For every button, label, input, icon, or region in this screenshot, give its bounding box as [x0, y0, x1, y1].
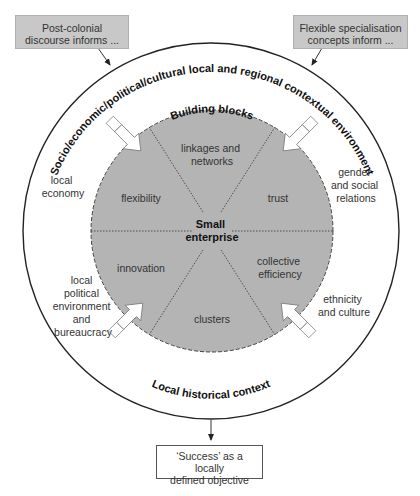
segment-trust: trust — [268, 192, 289, 204]
success-objective-box: ‘Success’ as a locally defined objective — [156, 445, 263, 479]
flexible-spec-connector — [312, 48, 322, 65]
success-line2: defined objective — [161, 474, 258, 486]
factor-gender-social-relations: gender and social relations — [331, 166, 381, 204]
segment-flexibility: flexibility — [121, 192, 161, 204]
post-colonial-box: Post-colonial discourse informs ... — [15, 15, 129, 49]
post-colonial-line1: Post-colonial — [20, 22, 124, 34]
flexible-spec-line1: Flexible specialisation — [298, 22, 403, 34]
segment-collective-efficiency: collective efficiency — [257, 255, 303, 280]
segment-innovation: innovation — [117, 262, 165, 274]
diagram: Socio/economic/political/cultural local … — [0, 0, 420, 496]
diagram-canvas: Socio/economic/political/cultural local … — [0, 0, 420, 496]
outer-bottom-arc-label: Local historical context — [150, 377, 272, 401]
flexible-specialisation-box: Flexible specialisation concepts inform … — [293, 15, 408, 49]
factor-local-economy: local economy — [42, 174, 85, 199]
post-colonial-line2: discourse informs ... — [20, 34, 124, 46]
post-colonial-connector — [98, 48, 110, 65]
factor-ethnicity-culture: ethnicity and culture — [318, 293, 370, 318]
flexible-spec-line2: concepts inform ... — [298, 34, 403, 46]
success-line1: ‘Success’ as a locally — [161, 450, 258, 474]
segment-clusters: clusters — [194, 313, 230, 325]
